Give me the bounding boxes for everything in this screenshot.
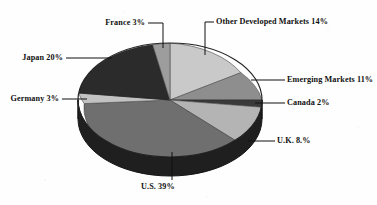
label-germany: Germany 3% bbox=[10, 95, 59, 103]
pie-chart-figure: Other Developed Markets 14% Emerging Mar… bbox=[0, 0, 377, 205]
leader-line-other-developed-markets bbox=[205, 22, 214, 55]
label-canada: Canada 2% bbox=[287, 99, 330, 107]
label-us: U.S. 39% bbox=[141, 183, 175, 191]
label-japan: Japan 20% bbox=[22, 54, 63, 62]
label-emerging-markets: Emerging Markets 11% bbox=[287, 76, 373, 84]
label-france: France 3% bbox=[105, 19, 145, 27]
label-uk: U.K. 8.% bbox=[277, 137, 311, 145]
label-other-developed-markets: Other Developed Markets 14% bbox=[216, 18, 328, 26]
